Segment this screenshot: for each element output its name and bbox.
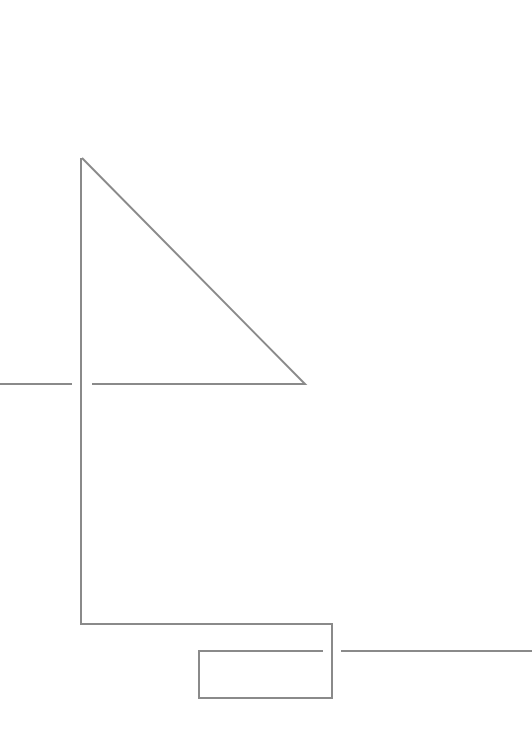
diagram-canvas	[0, 0, 532, 740]
triangle-line	[82, 158, 305, 384]
diagram-shapes	[0, 158, 532, 698]
main-path-line	[81, 158, 332, 698]
